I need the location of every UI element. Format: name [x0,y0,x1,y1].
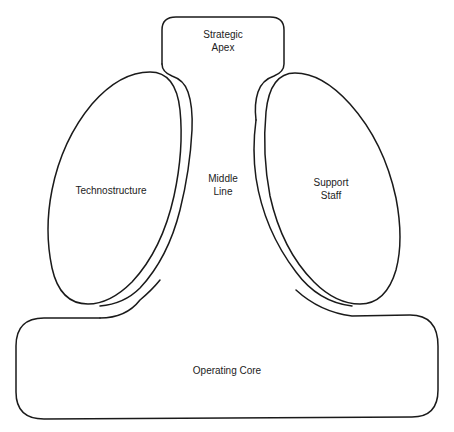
organization-diagram: Strategic Apex Technostructure Middle Li… [0,0,454,432]
operating-core-label-line-1: Operating Core [193,364,261,377]
support-staff-label-line-1: Support [313,176,348,189]
middle-line-right-wall [254,120,352,306]
technostructure-label-line-1: Technostructure [75,184,146,197]
support-staff-label-line-2: Staff [313,189,348,202]
strategic-apex-label: Strategic Apex [203,28,242,54]
technostructure-label: Technostructure [75,184,146,197]
middle-line-label-line-1: Middle [208,172,237,185]
support-staff-label: Support Staff [313,176,348,202]
middle-line-label-line-2: Line [208,185,237,198]
operating-core-label: Operating Core [193,364,261,377]
operating-core-shape [16,290,438,419]
middle-line-label: Middle Line [208,172,237,198]
strategic-apex-label-line-1: Strategic [203,28,242,41]
strategic-apex-label-line-2: Apex [203,41,242,54]
